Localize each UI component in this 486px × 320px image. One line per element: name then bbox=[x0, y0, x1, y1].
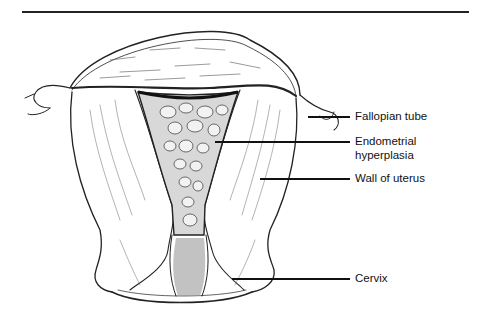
label-fallopian-tube: Fallopian tube bbox=[355, 109, 427, 123]
label-endometrial-line1: Endometrial bbox=[355, 134, 416, 148]
wall-of-uterus-leader bbox=[260, 178, 350, 180]
endometrial-mass bbox=[138, 92, 238, 235]
label-wall-of-uterus: Wall of uterus bbox=[355, 171, 425, 185]
cervix-leader bbox=[232, 278, 350, 280]
label-cervix: Cervix bbox=[355, 271, 388, 285]
endometrial-hyperplasia-leader bbox=[215, 141, 350, 143]
fallopian-tube-leader bbox=[308, 116, 350, 118]
label-endometrial-line2: hyperplasia bbox=[355, 148, 414, 162]
